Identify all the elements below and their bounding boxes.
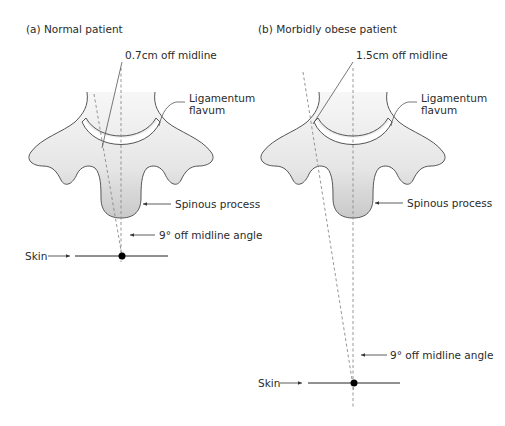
skin-label: Skin: [258, 377, 280, 389]
needle-entry-point: [351, 380, 358, 387]
ligamentum-label-line1: Ligamentum: [421, 92, 487, 104]
angle-label: 9° off midline angle: [159, 229, 263, 241]
ligamentum-label-line1: Ligamentum: [189, 92, 255, 104]
offset-label: 1.5cm off midline: [356, 49, 448, 61]
panel-title: (a) Normal patient: [26, 23, 123, 35]
epidural-angle-diagram: (a) Normal patient 0.7cm off midline Lig…: [0, 0, 505, 426]
needle-entry-point: [119, 253, 126, 260]
ligamentum-label-line2: flavum: [421, 104, 457, 116]
offset-label: 0.7cm off midline: [125, 49, 217, 61]
panel-normal-patient: (a) Normal patient 0.7cm off midline Lig…: [25, 23, 263, 262]
ligamentum-label-line2: flavum: [189, 104, 225, 116]
spinous-label: Spinous process: [175, 198, 260, 210]
angle-label: 9° off midline angle: [390, 349, 494, 361]
spinous-label: Spinous process: [407, 197, 492, 209]
panel-morbidly-obese-patient: (b) Morbidly obese patient 1.5cm off mid…: [258, 23, 494, 408]
panel-title: (b) Morbidly obese patient: [258, 23, 397, 35]
skin-label: Skin: [25, 250, 47, 262]
